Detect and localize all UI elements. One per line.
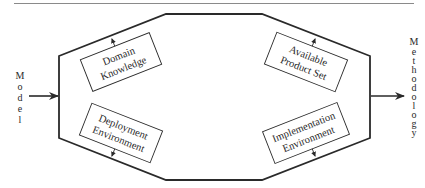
process-octagon [59, 14, 370, 180]
input-letter: M [16, 70, 25, 81]
input-letter: l [19, 114, 22, 125]
box-domain-knowledge: Domain Knowledge [77, 25, 161, 91]
input-letter: e [18, 103, 23, 114]
input-label-model: M o d e l [16, 70, 25, 125]
methodology-diagram: M o d e l M e t h o d o l o g y Domain K… [0, 0, 425, 188]
arrow-up-icon [112, 39, 115, 46]
arrow-down-icon [112, 149, 115, 156]
arrow-down-icon [312, 149, 315, 156]
box-implementation-environment: Implementation Environment [263, 103, 353, 171]
output-label-methodology: M e t h o d o l o g y [410, 36, 419, 138]
output-letter: y [412, 127, 417, 138]
arrow-up-icon [312, 39, 315, 46]
input-letter: d [18, 92, 23, 103]
input-letter: o [18, 81, 23, 92]
box-deployment-environment: Deployment Environment [76, 103, 162, 170]
box-available-product-set: Available Product Set [264, 25, 350, 92]
